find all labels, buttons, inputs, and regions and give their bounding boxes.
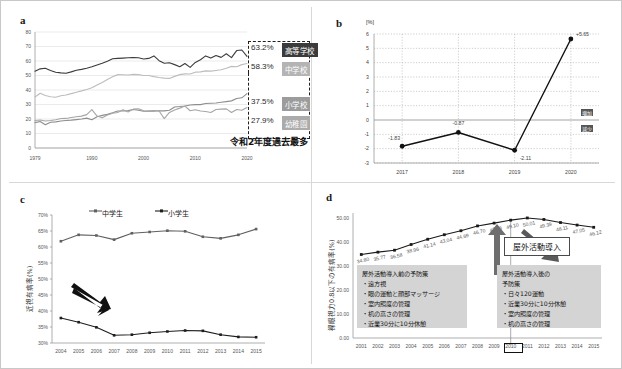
svg-text:30.00: 30.00	[336, 263, 349, 269]
svg-text:2013: 2013	[555, 343, 566, 349]
svg-text:30%: 30%	[38, 340, 49, 346]
svg-text:2018: 2018	[453, 169, 465, 175]
svg-text:36.58: 36.58	[389, 251, 403, 260]
svg-text:49.39: 49.39	[539, 221, 553, 230]
svg-text:43.04: 43.04	[439, 236, 453, 245]
svg-text:55%: 55%	[38, 260, 49, 266]
svg-text:2014: 2014	[572, 343, 583, 349]
svg-text:3: 3	[366, 74, 369, 80]
svg-text:2011: 2011	[180, 348, 191, 354]
svg-text:2010: 2010	[190, 155, 201, 161]
svg-text:46.12: 46.12	[589, 229, 603, 238]
svg-text:0: 0	[28, 145, 31, 151]
svg-text:2020: 2020	[241, 155, 252, 161]
svg-text:6: 6	[366, 31, 369, 37]
svg-text:2001: 2001	[356, 343, 367, 349]
panel-b-increase-label: 増加	[581, 109, 593, 116]
svg-text:2012: 2012	[197, 348, 208, 354]
svg-text:2004: 2004	[55, 348, 66, 354]
panel-c: c 30%35%40%45%50%55%60%65%70%20042005200…	[1, 183, 312, 369]
svg-text:48.11: 48.11	[555, 224, 568, 233]
panel-c-legend-item-1: 小学生	[168, 208, 189, 218]
figure-panel-container: a 0102030405060708019791990200020102020 …	[0, 0, 622, 369]
svg-text:50%: 50%	[38, 276, 49, 282]
panel-a-pct-3: 27.9%	[251, 116, 274, 125]
svg-text:34.80: 34.80	[356, 256, 370, 265]
svg-text:2015: 2015	[588, 343, 599, 349]
panel-c-y-axis-label: 近視有病率(%)	[24, 266, 34, 312]
svg-text:2009: 2009	[144, 348, 155, 354]
svg-text:-2: -2	[364, 145, 369, 151]
svg-text:2012: 2012	[538, 343, 549, 349]
svg-text:0: 0	[366, 117, 369, 123]
svg-text:47.05: 47.05	[572, 226, 586, 235]
svg-text:10: 10	[25, 130, 31, 136]
svg-text:40.00: 40.00	[336, 239, 349, 245]
panel-b-letter: b	[336, 17, 342, 29]
svg-text:2006: 2006	[439, 343, 450, 349]
panel-b-chart: -3-2-101234562017201820192020-1.83-0.87-…	[312, 1, 622, 183]
panel-b-unit-label: [%]	[366, 19, 374, 25]
svg-text:40: 40	[25, 87, 31, 93]
svg-text:2014: 2014	[233, 348, 244, 354]
svg-text:2005: 2005	[422, 343, 433, 349]
svg-text:44.69: 44.69	[456, 232, 470, 241]
svg-text:2000: 2000	[138, 155, 149, 161]
svg-text:1: 1	[366, 102, 369, 108]
panel-a-pct-2: 37.5%	[251, 97, 274, 106]
panel-d: d 0.0010.0020.0030.0040.0050.00200120022…	[312, 183, 622, 369]
svg-text:5: 5	[366, 45, 369, 51]
svg-text:50.01: 50.01	[522, 219, 536, 228]
svg-text:2005: 2005	[73, 348, 84, 354]
svg-text:2008: 2008	[126, 348, 137, 354]
panel-a-label-2: 小学校	[282, 97, 310, 111]
svg-text:20: 20	[25, 116, 31, 122]
panel-c-letter: c	[20, 193, 25, 205]
panel-d-info-before: 屋外活動導入前の予防策 ・遠方視 ・眼の運動と顔部マッサージ ・室内照度の管理 …	[357, 265, 467, 328]
panel-a-letter: a	[20, 14, 26, 26]
svg-text:2004: 2004	[406, 343, 417, 349]
svg-text:38.96: 38.96	[406, 246, 420, 255]
svg-text:65%: 65%	[38, 228, 49, 234]
svg-text:2007: 2007	[109, 348, 120, 354]
svg-text:2006: 2006	[91, 348, 102, 354]
svg-text:10.00: 10.00	[336, 311, 349, 317]
svg-text:41.14: 41.14	[423, 241, 437, 250]
panel-c-legend-item-0: 中学生	[102, 208, 123, 218]
svg-text:70%: 70%	[38, 212, 49, 218]
panel-a-caption: 令和2年度過去最多	[230, 135, 308, 148]
panel-d-info-after: 屋外活動導入後の 予防策 ・日々120運動 ・近業30分に10分休憩 ・室内照度…	[497, 265, 601, 328]
svg-text:2017: 2017	[396, 169, 408, 175]
svg-text:2020: 2020	[565, 169, 577, 175]
svg-text:-0.87: -0.87	[452, 120, 464, 126]
svg-text:2007: 2007	[455, 343, 466, 349]
panel-a-label-3: 幼稚園	[282, 116, 310, 130]
svg-text:2008: 2008	[472, 343, 483, 349]
svg-text:50.00: 50.00	[336, 215, 349, 221]
panel-d-letter: d	[326, 191, 332, 203]
svg-text:2013: 2013	[215, 348, 226, 354]
svg-text:50: 50	[25, 72, 31, 78]
svg-text:40%: 40%	[38, 308, 49, 314]
svg-text:30: 30	[25, 101, 31, 107]
svg-text:46.70: 46.70	[472, 227, 486, 236]
svg-text:1979: 1979	[29, 155, 40, 161]
svg-text:35%: 35%	[38, 324, 49, 330]
panel-d-callout-label: 屋外活動導入	[504, 237, 570, 256]
svg-text:60: 60	[25, 58, 31, 64]
panel-c-chart: 30%35%40%45%50%55%60%65%70%2004200520062…	[1, 183, 312, 369]
panel-d-highlight-year-box	[504, 343, 523, 353]
svg-text:-2.11: -2.11	[520, 155, 532, 161]
svg-text:20.00: 20.00	[336, 287, 349, 293]
svg-text:1990: 1990	[86, 155, 97, 161]
svg-text:49.10: 49.10	[506, 221, 520, 230]
panel-a: a 0102030405060708019791990200020102020 …	[1, 1, 312, 183]
svg-text:-3: -3	[364, 160, 369, 166]
svg-text:2002: 2002	[372, 343, 383, 349]
svg-text:70: 70	[25, 43, 31, 49]
svg-text:-1.83: -1.83	[388, 135, 400, 141]
panel-a-label-1: 中学校	[282, 62, 310, 76]
panel-a-pct-1: 58.3%	[251, 62, 274, 71]
svg-text:2: 2	[366, 88, 369, 94]
svg-text:45%: 45%	[38, 292, 49, 298]
